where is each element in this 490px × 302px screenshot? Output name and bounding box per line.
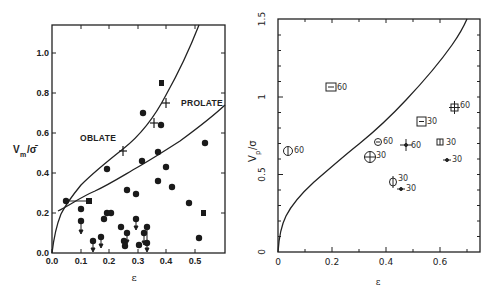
circle-minus-marker <box>375 139 382 146</box>
svg-text:30: 30 <box>427 117 437 126</box>
svg-text:V: V <box>13 144 20 155</box>
right-xtick-label: 0.2 <box>325 257 339 267</box>
svg-text:/σ: /σ <box>247 140 258 150</box>
left-chart: 0.0 0.1 0.2 0.3 0.4 0.5 0.0 0.2 0.4 0.6 … <box>13 25 225 283</box>
svg-text:60: 60 <box>383 137 393 146</box>
right-ytick-label: 0 <box>257 249 267 255</box>
right-markers <box>284 83 461 191</box>
square-box-marker <box>437 139 443 145</box>
left-x-ticks <box>52 25 195 253</box>
right-chart: 0 0.2 0.4 0.6 0 0.5 1 1.5 ε V p /σ <box>247 12 480 287</box>
square-plus-marker <box>326 83 336 91</box>
right-y-ticks <box>278 35 480 237</box>
svg-text:30: 30 <box>406 184 416 193</box>
right-xtick-label: 0.6 <box>433 257 448 267</box>
right-xtick-label: 0 <box>275 257 281 267</box>
right-ytick-label: 1.5 <box>257 12 267 26</box>
left-xtick-label: 0.3 <box>132 256 145 266</box>
svg-text:m: m <box>20 151 26 158</box>
svg-text:30: 30 <box>446 138 456 147</box>
svg-text:30: 30 <box>376 151 386 160</box>
circle-plus-large-marker <box>365 152 376 163</box>
svg-text:30: 30 <box>452 155 462 164</box>
phi-marker <box>390 176 397 188</box>
right-x-axis-label: ε <box>376 277 381 287</box>
left-ytick-label: 0.4 <box>36 168 49 178</box>
svg-text:60: 60 <box>337 83 347 92</box>
right-ytick-label: 1 <box>257 94 267 100</box>
left-x-axis-label: ε <box>131 272 136 283</box>
oblate-curve <box>52 25 199 253</box>
svg-text:30: 30 <box>398 174 408 183</box>
svg-text:60: 60 <box>411 141 421 150</box>
right-x-ticks <box>305 19 467 252</box>
left-y-axis-label: V m /σ̄ <box>13 144 39 158</box>
svg-text:60: 60 <box>460 101 470 110</box>
figure: 0.0 0.1 0.2 0.3 0.4 0.5 0.0 0.2 0.4 0.6 … <box>0 0 490 302</box>
dot-dash-marker <box>397 188 405 191</box>
rotator-curve <box>278 19 467 252</box>
square-plus-marker <box>449 101 460 114</box>
circle-plus-marker <box>284 147 293 156</box>
right-xtick-label: 0.4 <box>379 257 394 267</box>
left-xtick-label: 0.2 <box>103 256 116 266</box>
left-ytick-label: 1.0 <box>36 48 49 58</box>
right-ytick-label: 0.5 <box>257 167 267 181</box>
prolate-annotation: PROLATE <box>181 98 223 108</box>
oblate-annotation: OBLATE <box>80 133 116 143</box>
right-plot-frame <box>278 19 480 252</box>
svg-text:/σ̄: /σ̄ <box>27 144 39 155</box>
dot-dash-marker <box>443 159 451 162</box>
left-xtick-label: 0.4 <box>160 256 173 266</box>
left-ytick-label: 0.8 <box>36 88 49 98</box>
left-xtick-label: 0.5 <box>189 256 202 266</box>
square-minus-marker <box>417 117 426 126</box>
left-xtick-label: 0.1 <box>75 256 88 266</box>
left-ytick-label: 0.0 <box>36 248 49 258</box>
right-y-axis-label: V p /σ <box>247 140 262 162</box>
left-ytick-label: 0.6 <box>36 128 49 138</box>
left-ytick-label: 0.2 <box>36 208 49 218</box>
svg-text:V: V <box>247 155 258 162</box>
svg-text:60: 60 <box>294 146 304 155</box>
